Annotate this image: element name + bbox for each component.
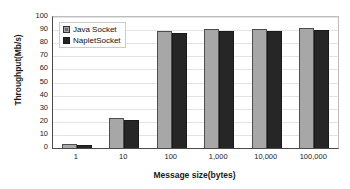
y-axis-tick-label: 10 [26,130,48,138]
y-axis-tick-label: 90 [26,25,48,33]
legend-swatch-icon [63,26,70,33]
bar [62,144,77,148]
legend-item: Java Socket [63,25,121,34]
legend-item: NapletSocket [63,36,121,45]
bar [219,31,234,148]
chart-legend: Java SocketNapletSocket [59,22,126,48]
legend-swatch-icon [63,37,70,44]
y-axis-tick-label: 70 [26,51,48,59]
y-axis-tick-label: 40 [26,91,48,99]
x-axis-tick-label: 100 [147,152,195,161]
bar [314,30,329,148]
x-axis-tick-label: 10 [100,152,148,161]
bar [124,120,139,148]
x-axis-tick-label: 1,000 [195,152,243,161]
x-axis-title: Message size(bytes) [52,170,337,180]
bar-group [148,17,196,148]
y-axis-tick-labels: 1009080706050403020100 [26,10,48,150]
y-axis-tick-label: 100 [26,12,48,20]
bar [157,31,172,148]
x-axis-tick-labels: 1101001,00010,000100,000 [52,152,337,161]
legend-label: Java Socket [73,25,117,34]
bar [267,31,282,148]
y-axis-tick-label: 0 [26,143,48,151]
bar-group [196,17,244,148]
bar [109,118,124,148]
y-axis-title: Throughput(Mb/s) [13,5,23,135]
y-axis-tick-label: 20 [26,117,48,125]
bar-group [291,17,339,148]
y-axis-tick-label: 30 [26,104,48,112]
bar [77,145,92,148]
x-axis-tick-label: 1 [52,152,100,161]
y-axis-tick-label: 60 [26,64,48,72]
legend-label: NapletSocket [73,36,121,45]
x-axis-tick-label: 10,000 [242,152,290,161]
y-axis-tick-label: 50 [26,78,48,86]
bar [172,33,187,148]
bar [252,29,267,148]
y-axis-tick-label: 80 [26,38,48,46]
bar [204,29,219,148]
bar [299,28,314,148]
bar-group [243,17,291,148]
bar-chart: Throughput(Mb/s) 1009080706050403020100 … [0,0,350,189]
x-axis-tick-label: 100,000 [290,152,338,161]
